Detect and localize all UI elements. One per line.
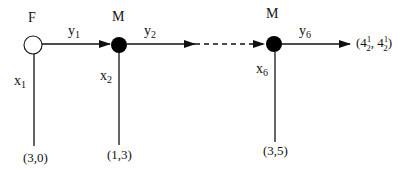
node-f-open-circle — [24, 36, 42, 54]
payoff-x1: (3,0) — [23, 151, 48, 164]
edge-label-x2: x2 — [100, 69, 112, 83]
terminal-payoff: (412, 412) — [356, 36, 392, 49]
edge-label-x1: x1 — [14, 74, 26, 88]
payoff-x6: (3,5) — [263, 144, 288, 157]
edge-label-y2: y2 — [144, 24, 156, 38]
edge-label-y6: y6 — [299, 24, 311, 38]
node-m1-filled-circle — [111, 37, 127, 53]
node-label-f: F — [28, 11, 36, 25]
edge-label-x6: x6 — [256, 62, 268, 76]
payoff-x2: (1,3) — [107, 148, 132, 161]
node-m6-filled-circle — [266, 36, 282, 52]
node-label-m6: M — [266, 7, 278, 21]
edge-label-y1: y1 — [68, 24, 80, 38]
node-label-m1: M — [112, 10, 124, 24]
game-tree-canvas — [0, 0, 419, 171]
